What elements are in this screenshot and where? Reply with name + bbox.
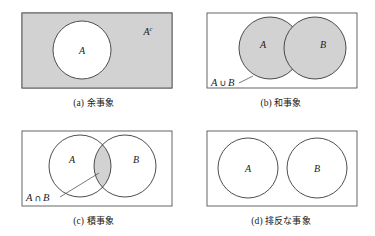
- panel-d-caption-marker: (d): [251, 216, 262, 226]
- panel-a-caption: (a) 余事象: [0, 96, 187, 109]
- circle-a-label: A: [259, 39, 267, 50]
- intersection-operator-icon: ∩: [34, 193, 41, 203]
- union-expr-right: B: [228, 77, 235, 88]
- intersection-expression-label: A∩B: [25, 192, 50, 203]
- intersection-expr-left: A: [25, 192, 33, 203]
- circle-b-label: B: [133, 154, 139, 165]
- panel-a-complement: A Ac (a) 余事象: [0, 0, 187, 118]
- panel-b-union: A B A∪B (b) 和事象: [187, 0, 375, 118]
- panel-c-caption-marker: (c): [73, 216, 84, 226]
- circle-b: [284, 17, 346, 79]
- panel-c-caption: (c) 積事象: [0, 214, 187, 227]
- circle-b-label: B: [320, 39, 326, 50]
- panel-d-caption: (d) 排反な事象: [187, 214, 375, 227]
- circle-a-label: A: [68, 154, 76, 165]
- panel-a-caption-text: 余事象: [87, 98, 114, 108]
- panel-a-caption-marker: (a): [73, 98, 84, 108]
- union-expr-left: A: [210, 77, 218, 88]
- panel-b-caption-text: 和事象: [274, 98, 301, 108]
- circle-a-label: A: [78, 45, 86, 56]
- panel-b-caption: (b) 和事象: [187, 96, 375, 109]
- circle-b-label: B: [314, 163, 320, 174]
- union-operator-icon: ∪: [219, 78, 226, 88]
- intersection-expr-right: B: [43, 192, 50, 203]
- complement-label-superscript: c: [150, 25, 153, 32]
- circle-a-label: A: [244, 163, 252, 174]
- venn-figure-grid: A Ac (a) 余事象 A B A∪B (b) 和事象: [0, 0, 375, 236]
- panel-b-caption-marker: (b): [260, 98, 271, 108]
- panel-d-disjoint: A B (d) 排反な事象: [187, 118, 375, 236]
- panel-c-intersection: A B A∩B (c) 積事象: [0, 118, 187, 236]
- panel-d-caption-text: 排反な事象: [265, 216, 311, 226]
- union-expression-label: A∪B: [210, 77, 235, 88]
- panel-c-caption-text: 積事象: [87, 216, 114, 226]
